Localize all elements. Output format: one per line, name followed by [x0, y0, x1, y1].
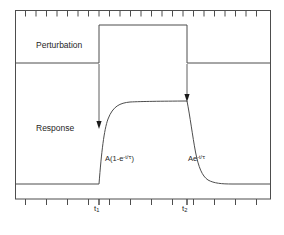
rise-expression-suffix: ): [131, 154, 134, 163]
bottom-axis-ticks: [26, 199, 257, 205]
top-axis-ticks: [26, 11, 257, 17]
t1-subscript: 1: [96, 207, 99, 213]
plot-frame: [16, 11, 271, 200]
rise-expression-prefix: A(1-e: [105, 154, 123, 163]
t2-subscript: 2: [184, 207, 187, 213]
arrow-at-t2: [184, 64, 189, 102]
decay-expression-prefix: Ae: [188, 154, 197, 163]
arrow-at-t1: [96, 64, 101, 129]
rise-expression-label: A(1-e-t/τ): [105, 155, 134, 163]
step-response-plot: [0, 0, 284, 235]
decay-expression-label: Ae-t/τ: [188, 155, 205, 163]
response-curve: [16, 101, 270, 184]
xtick-label-t1: t1: [94, 205, 99, 214]
xtick-label-t2: t2: [182, 205, 187, 214]
perturbation-label: Perturbation: [36, 41, 82, 50]
decay-expression-exponent: -t/τ: [197, 154, 205, 160]
figure-container: Perturbation Response A(1-e-t/τ) Ae-t/τ …: [0, 0, 284, 235]
response-label: Response: [36, 124, 74, 133]
decay-exponent-tau: τ: [202, 154, 205, 160]
